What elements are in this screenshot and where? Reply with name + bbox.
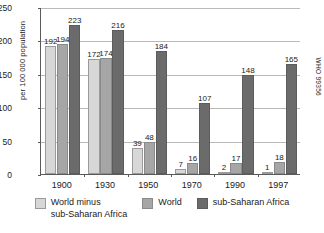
- bar: 216: [112, 30, 124, 174]
- bar: 148: [242, 75, 254, 174]
- x-axis-group-separator: [214, 174, 215, 177]
- legend-item: World: [142, 197, 181, 209]
- legend-swatch: [142, 198, 153, 209]
- bar-value-label: 216: [111, 21, 124, 30]
- legend-swatch: [197, 198, 208, 209]
- bar: 165: [286, 64, 298, 174]
- legend-item: sub-Saharan Africa: [197, 197, 290, 209]
- bar-value-label: 39: [133, 139, 142, 148]
- chart-legend: World minus sub-Saharan AfricaWorldsub-S…: [0, 197, 324, 220]
- y-axis-tick-mark: [38, 108, 41, 109]
- bar: 48: [144, 142, 156, 174]
- bar-value-label: 184: [155, 42, 168, 51]
- x-axis-group-separator: [171, 174, 172, 177]
- bar: 223: [69, 25, 81, 174]
- x-axis-group-separator: [258, 174, 259, 177]
- bar-value-label: 16: [188, 154, 197, 163]
- y-axis-tick-mark: [38, 41, 41, 42]
- bar: 7: [175, 169, 187, 174]
- bar-value-label: 174: [99, 49, 112, 58]
- y-axis-title: per 100 000 population: [18, 1, 27, 121]
- bar-value-label: 18: [275, 153, 284, 162]
- gridline: [41, 8, 300, 9]
- legend-item: World minus sub-Saharan Africa: [35, 197, 128, 220]
- legend-label: World: [158, 197, 181, 209]
- x-axis-group-separator: [128, 174, 129, 177]
- y-axis-tick-label: 200: [0, 36, 12, 46]
- bar: 107: [199, 103, 211, 174]
- bar: 184: [156, 51, 168, 174]
- bar: 1: [262, 172, 274, 174]
- bar-value-label: 1: [265, 163, 269, 172]
- legend-label: sub-Saharan Africa: [213, 197, 290, 209]
- bar-value-label: 148: [241, 66, 254, 75]
- legend-label: World minus sub-Saharan Africa: [51, 197, 128, 220]
- bar: 18: [274, 162, 286, 174]
- y-axis-tick-mark: [38, 175, 41, 176]
- chart-figure: per 100 000 population 05010015020025019…: [0, 0, 324, 233]
- x-axis-tick-label: 1997: [248, 180, 308, 190]
- bar-value-label: 223: [68, 16, 81, 25]
- y-axis-tick-mark: [38, 8, 41, 9]
- y-axis-tick-label: 50: [0, 137, 12, 147]
- y-axis-tick-mark: [38, 142, 41, 143]
- bar-value-label: 7: [178, 160, 182, 169]
- x-axis-group-separator: [84, 174, 85, 177]
- bar-value-label: 48: [145, 133, 154, 142]
- source-code-label: WHO 99356: [315, 58, 322, 96]
- bar-value-label: 194: [56, 35, 69, 44]
- bar: 17: [230, 163, 242, 174]
- bar: 39: [132, 148, 144, 174]
- y-axis-tick-mark: [38, 75, 41, 76]
- bar: 172: [88, 59, 100, 174]
- bar: 16: [187, 163, 199, 174]
- y-axis-tick-label: 100: [0, 103, 12, 113]
- bar-value-label: 107: [198, 94, 211, 103]
- plot-area: 0501001502002501921942231721742163948184…: [40, 8, 300, 175]
- bar-value-label: 17: [232, 154, 241, 163]
- bar: 2: [218, 172, 230, 174]
- bar: 192: [45, 46, 57, 174]
- y-axis-tick-label: 250: [0, 3, 12, 13]
- bar: 174: [100, 58, 112, 174]
- y-axis-tick-label: 150: [0, 70, 12, 80]
- bar-value-label: 2: [222, 163, 226, 172]
- bar: 194: [57, 44, 69, 174]
- legend-swatch: [35, 198, 46, 209]
- bar-value-label: 165: [285, 55, 298, 64]
- plot-inner: 0501001502002501921942231721742163948184…: [41, 8, 300, 174]
- y-axis-tick-label: 0: [0, 170, 12, 180]
